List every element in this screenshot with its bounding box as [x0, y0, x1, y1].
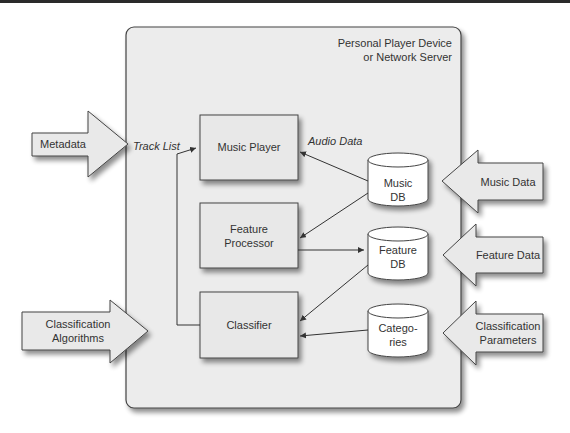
music-player-label: Music Player	[218, 141, 281, 153]
music-db-label-line2: DB	[390, 191, 405, 203]
music-data-label: Music Data	[480, 176, 536, 188]
classification-parameters-label-line1: Classification	[476, 320, 541, 332]
categories-label-line2: ries	[389, 336, 407, 348]
metadata-label: Metadata	[40, 138, 87, 150]
container-title-line2: or Network Server	[363, 51, 452, 63]
classification-algorithms-label-line1: Classification	[46, 318, 111, 330]
feature-processor-label-line2: Processor	[224, 237, 274, 249]
container-title-line1: Personal Player Device	[338, 37, 452, 49]
classification-parameters-label-line2: Parameters	[480, 334, 537, 346]
diagram-canvas: Personal Player Device or Network Server…	[0, 0, 570, 433]
classifier-box: Classifier	[200, 292, 298, 358]
feature-processor-label-line1: Feature	[230, 223, 268, 235]
music-player-box: Music Player	[200, 115, 298, 180]
classifier-label: Classifier	[226, 319, 272, 331]
audio-data-label: Audio Data	[307, 135, 362, 147]
music-db-label-line1: Music	[384, 177, 413, 189]
feature-db-label-line1: Feature	[379, 244, 417, 256]
feature-data-label: Feature Data	[476, 249, 541, 261]
track-list-label: Track List	[133, 140, 181, 152]
classification-algorithms-label-line2: Algorithms	[52, 332, 104, 344]
metadata-input-arrow: Metadata	[32, 111, 128, 177]
feature-db-label-line2: DB	[390, 258, 405, 270]
feature-processor-box: Feature Processor	[200, 203, 298, 268]
categories-label-line1: Catego-	[378, 322, 417, 334]
